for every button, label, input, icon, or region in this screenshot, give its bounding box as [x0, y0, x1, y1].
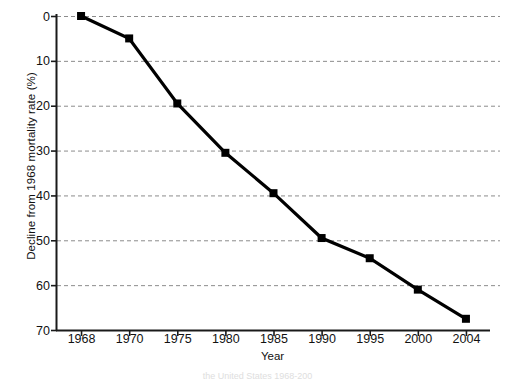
x-axis-tick-label: 2004	[436, 332, 496, 346]
x-axis-tick-labels: 196819701975198019851990199520002004	[0, 332, 515, 352]
y-axis-tick-labels: 010203040506070	[16, 0, 50, 381]
plot-area	[0, 0, 515, 381]
y-axis-tick-label: 40	[24, 190, 50, 202]
data-point-marker	[221, 149, 229, 157]
data-point-marker	[462, 315, 470, 323]
data-point-marker	[366, 254, 374, 262]
data-point-marker	[318, 234, 326, 242]
y-axis-tick-label: 10	[24, 55, 50, 67]
y-axis-tick-label: 30	[24, 145, 50, 157]
data-point-markers	[77, 12, 470, 323]
x-axis-title: Year	[55, 350, 490, 362]
figure-caption-clipped: the United States 1968-200	[0, 372, 515, 381]
data-point-marker	[414, 286, 422, 294]
data-point-marker	[77, 12, 85, 20]
gridlines	[57, 17, 500, 286]
y-axis-tick-label: 20	[24, 100, 50, 112]
y-axis-tick-label: 50	[24, 235, 50, 247]
data-point-marker	[270, 189, 278, 197]
data-point-marker	[125, 34, 133, 42]
data-point-marker	[173, 99, 181, 107]
figure-caption-text: the United States 1968-200	[0, 372, 515, 381]
chart-figure: Decline from 1968 mortality rate (%) 010…	[0, 0, 515, 381]
y-axis-tick-label: 60	[24, 280, 50, 292]
y-axis-tick-label: 0	[24, 11, 50, 23]
